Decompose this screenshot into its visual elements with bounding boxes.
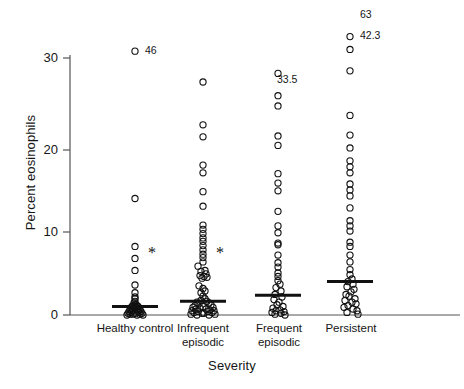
y-axis-title: Percent eosinophils bbox=[23, 73, 38, 273]
x-category-label-persistent: Persistent bbox=[296, 322, 406, 336]
data-point bbox=[132, 48, 138, 54]
y-tick-label-20: 20 bbox=[32, 142, 58, 157]
data-point bbox=[275, 188, 281, 194]
data-point bbox=[275, 252, 281, 258]
data-point bbox=[275, 230, 281, 236]
x-axis-title: Severity bbox=[0, 358, 464, 373]
data-point bbox=[275, 180, 281, 186]
data-point bbox=[200, 203, 206, 209]
data-point bbox=[132, 255, 138, 261]
data-point bbox=[347, 68, 353, 74]
data-point bbox=[132, 243, 138, 249]
data-point bbox=[275, 208, 281, 214]
data-point bbox=[347, 259, 353, 265]
data-point bbox=[347, 158, 353, 164]
data-point bbox=[278, 288, 284, 294]
data-point bbox=[132, 267, 138, 273]
data-point bbox=[347, 187, 353, 193]
data-point bbox=[200, 162, 206, 168]
data-point bbox=[347, 46, 353, 52]
x-category-label-persistent-line1: Persistent bbox=[296, 322, 406, 336]
data-point bbox=[347, 205, 353, 211]
y-tick-label-10: 10 bbox=[32, 224, 58, 239]
data-point bbox=[347, 132, 353, 138]
data-point bbox=[200, 134, 206, 140]
value-annotation-42-3: 42.3 bbox=[360, 29, 380, 41]
y-axis-ticks bbox=[63, 58, 70, 315]
data-point bbox=[200, 170, 206, 176]
data-point bbox=[275, 93, 281, 99]
value-annotation-33-5: 33.5 bbox=[277, 73, 297, 85]
data-point bbox=[347, 33, 353, 39]
y-tick-label-30: 30 bbox=[32, 50, 58, 65]
data-point bbox=[275, 103, 281, 109]
value-annotation-63: 63 bbox=[360, 8, 372, 20]
data-point bbox=[200, 122, 206, 128]
data-point bbox=[132, 195, 138, 201]
data-point bbox=[200, 189, 206, 195]
data-point bbox=[132, 282, 138, 288]
data-point bbox=[347, 181, 353, 187]
data-point bbox=[347, 243, 353, 249]
significance-asterisk-2: * bbox=[216, 245, 224, 261]
data-point bbox=[347, 193, 353, 199]
data-point bbox=[275, 171, 281, 177]
x-category-label-frequent-episodic-line2: episodic bbox=[224, 336, 334, 350]
data-point bbox=[275, 133, 281, 139]
data-point bbox=[275, 223, 281, 229]
axis-lines bbox=[70, 55, 460, 315]
data-point bbox=[347, 164, 353, 170]
value-annotation-46: 46 bbox=[145, 44, 157, 56]
data-point bbox=[347, 252, 353, 258]
y-tick-label-0: 0 bbox=[32, 307, 58, 322]
significance-asterisk-1: * bbox=[148, 245, 156, 261]
median-bar-layer bbox=[112, 282, 373, 307]
data-point bbox=[200, 79, 206, 85]
data-point bbox=[350, 306, 356, 312]
data-marker-layer bbox=[124, 33, 361, 318]
data-point bbox=[347, 112, 353, 118]
data-point bbox=[347, 170, 353, 176]
data-point bbox=[347, 145, 353, 151]
data-point bbox=[275, 142, 281, 148]
data-point bbox=[275, 264, 281, 270]
